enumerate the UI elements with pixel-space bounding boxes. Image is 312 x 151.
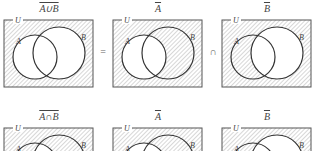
svg-text:B: B	[81, 141, 86, 150]
svg-text:A: A	[233, 37, 239, 46]
panel-label: B	[221, 111, 312, 122]
svg-text:B: B	[299, 33, 304, 42]
venn-diagram: U A B	[221, 127, 312, 151]
venn-panel-complement-a: A U A B	[112, 19, 204, 89]
svg-text:A: A	[15, 37, 21, 46]
svg-text:A: A	[233, 145, 239, 151]
svg-text:B: B	[299, 141, 304, 150]
venn-panel-complement-b: B U A B	[221, 127, 312, 151]
svg-text:A: A	[124, 37, 130, 46]
venn-panel-complement-a-union-b: A∪B U A B	[3, 19, 95, 89]
panel-label: B	[221, 3, 312, 14]
venn-diagram: U A B	[221, 19, 312, 89]
panel-label: A	[112, 111, 204, 122]
intersection-operator: ∩	[206, 46, 220, 57]
svg-text:B: B	[190, 33, 195, 42]
venn-panel-complement-a-intersect-b: A∩B U A B	[3, 127, 95, 151]
venn-panel-complement-b: B U A B	[221, 19, 312, 89]
venn-diagram: U A B	[3, 127, 95, 151]
panel-label: A∪B	[3, 3, 95, 14]
panel-label: A∩B	[3, 111, 95, 122]
svg-text:B: B	[81, 33, 86, 42]
venn-diagram: U A B	[3, 19, 95, 89]
venn-panel-complement-a: A U A B	[112, 127, 204, 151]
panel-label: A	[112, 3, 204, 14]
svg-text:A: A	[124, 145, 130, 151]
venn-diagram: U A B	[112, 19, 204, 89]
equals-operator: =	[96, 46, 110, 57]
svg-text:B: B	[190, 141, 195, 150]
venn-diagram: U A B	[112, 127, 204, 151]
svg-text:A: A	[15, 145, 21, 151]
